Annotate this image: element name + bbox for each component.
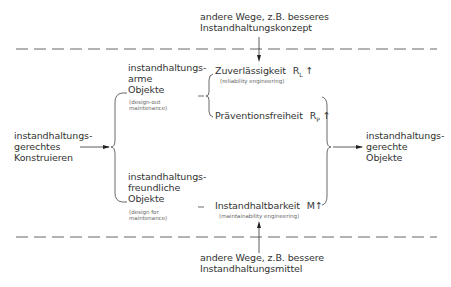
input-line3: Konstruieren	[14, 153, 92, 164]
lower-branch-english: (design for maintenance)	[129, 209, 167, 221]
property-prevention: Präventionsfreiheit RP ↑	[215, 111, 331, 124]
upper-branch-label: instandhaltungs- arme Objekte	[128, 63, 206, 96]
input-label: instandhaltungs- gerechtes Konstruieren	[14, 131, 92, 164]
property-symbol: M	[307, 200, 315, 211]
property-label: Zuverlässigkeit	[215, 65, 286, 76]
bottom-note-line2: Instandhaltungsmittel	[200, 264, 324, 275]
upper-brace	[206, 74, 213, 117]
property-subscript: L	[299, 71, 302, 78]
top-note: andere Wege, z.B. besseres Instandhaltun…	[200, 12, 329, 34]
lower-branch-label: instandhaltungs- freundliche Objekte	[128, 172, 206, 205]
property-label: Instandhaltbarkeit	[215, 200, 300, 211]
output-line3: Objekte	[366, 153, 444, 164]
bottom-note: andere Wege, z.B. bessere Instandhaltung…	[200, 253, 324, 275]
lower-english-line2: maintenance)	[129, 215, 167, 221]
property-maintainability: Instandhaltbarkeit M↑	[215, 201, 323, 212]
lower-branch-line3: Objekte	[128, 194, 206, 205]
output-label: instandhaltungs- gerechte Objekte	[366, 131, 444, 164]
upper-english-line2: maintenance)	[129, 105, 167, 111]
trend-up-icon: ↑	[305, 65, 313, 76]
property-reliability: Zuverlässigkeit RL ↑	[215, 66, 313, 79]
property-maintainability-english: (maintainability engineering)	[219, 213, 299, 219]
top-note-line2: Instandhaltungskonzept	[200, 23, 329, 34]
left-brace	[111, 93, 122, 202]
property-label: Präventionsfreiheit	[215, 110, 303, 121]
output-arrow-icon	[333, 145, 363, 149]
property-subscript: P	[316, 116, 320, 123]
property-reliability-english: (reliability engineering)	[220, 78, 284, 84]
trend-up-icon: ↑	[315, 200, 323, 211]
trend-up-icon: ↑	[323, 110, 331, 121]
upper-branch-line3: Objekte	[128, 85, 206, 96]
upper-branch-english: (design-out maintenance)	[129, 99, 167, 111]
